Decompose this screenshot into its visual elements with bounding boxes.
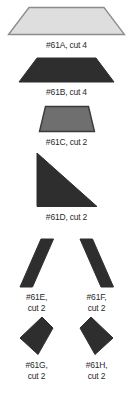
shape-61a-svg <box>7 6 126 36</box>
piece-block-61b: #61B, cut 4 <box>0 57 133 98</box>
shape-61b-svg <box>18 57 115 83</box>
shape-61a-trapezoid <box>0 6 133 36</box>
piece-pair-row-gh: #61G, cut 2 #61H, cut 2 <box>0 316 133 381</box>
shape-61h-svg <box>79 316 115 356</box>
shape-61b-trapezoid <box>0 57 133 83</box>
piece-label-61c: #61C, cut 2 <box>0 137 133 148</box>
piece-block-61d: #61D, cut 2 <box>0 152 133 223</box>
shape-61h-kite <box>30 316 133 356</box>
shape-61c-svg <box>38 105 96 133</box>
piece-label-61b: #61B, cut 4 <box>0 87 133 98</box>
piece-label-61e: #61E, cut 2 <box>26 292 47 313</box>
kite-61h-polygon <box>80 317 113 355</box>
piece-label-61f: #61F, cut 2 <box>87 292 107 313</box>
piece-label-61g: #61G, cut 2 <box>25 360 47 381</box>
shape-61f-svg <box>79 238 115 288</box>
piece-block-61h: #61H, cut 2 <box>67 316 127 381</box>
piece-label-61d: #61D, cut 2 <box>0 212 133 223</box>
parallelogram-61f-polygon <box>80 239 114 287</box>
piece-block-61c: #61C, cut 2 <box>0 105 133 148</box>
pattern-sheet: #61A, cut 4 #61B, cut 4 #61C, cut 2 #61D… <box>0 0 133 393</box>
piece-pair-row-ef: #61E, cut 2 #61F, cut 2 <box>0 238 133 313</box>
shape-61d-triangle <box>0 152 133 208</box>
shape-61f-parallelogram <box>30 238 133 288</box>
piece-block-61a: #61A, cut 4 <box>0 6 133 51</box>
piece-label-61h: #61H, cut 2 <box>86 360 108 381</box>
piece-label-61a: #61A, cut 4 <box>0 40 133 51</box>
trapezoid-61b-polygon <box>19 58 114 82</box>
trapezoid-61c-polygon <box>39 107 94 132</box>
triangle-61d-polygon <box>37 153 97 207</box>
shape-61c-trapezoid <box>0 105 133 133</box>
piece-block-61f: #61F, cut 2 <box>67 238 127 313</box>
trapezoid-61a-polygon <box>9 8 125 35</box>
shape-61d-svg <box>36 152 98 208</box>
